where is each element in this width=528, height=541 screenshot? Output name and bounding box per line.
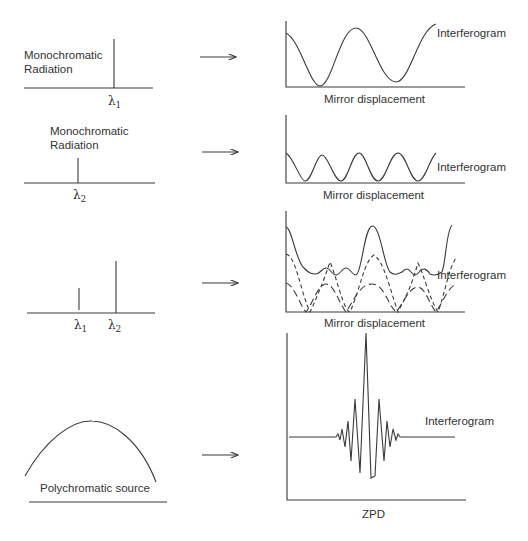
lambda-subscript: 1 [82,324,88,334]
interferogram-2-label: Interferogram [437,160,506,174]
interferogram-3 [286,211,465,312]
spectrum-2-label: Monochromatic Radiation [50,124,129,152]
spectrum-3 [27,261,155,313]
label-line: Monochromatic [24,48,103,62]
x-axis-label-3: Mirror displacement [324,316,425,330]
lambda-symbol: λ [108,94,116,108]
lambda-symbol: λ [108,318,116,332]
x-axis-label-2: Mirror displacement [323,188,424,202]
zpd-label: ZPD [362,507,385,521]
spectrum-2 [24,158,155,183]
x-axis-label-1: Mirror displacement [324,92,425,106]
lambda-subscript: 2 [81,194,87,204]
polychromatic-source-label: Polychromatic source [40,481,150,495]
label-line: Monochromatic [50,124,129,138]
interferogram-1-label: Interferogram [437,26,506,40]
spectrum-1-label: Monochromatic Radiation [24,48,103,76]
lambda-symbol: λ [73,188,81,202]
interferogram-4-label: Interferogram [425,414,494,428]
lambda-symbol: λ [74,318,82,332]
lambda-2-label-panel-3: λ2 [108,318,121,334]
label-line: Radiation [24,62,103,76]
lambda-subscript: 2 [116,324,122,334]
label-line: Radiation [50,138,129,152]
lambda-subscript: 1 [116,100,122,110]
interferogram-3-label: Interferogram [437,268,506,282]
lambda-1-label: λ1 [108,94,121,110]
lambda-1-label-panel-3: λ1 [74,318,87,334]
lambda-2-label: λ2 [73,188,86,204]
